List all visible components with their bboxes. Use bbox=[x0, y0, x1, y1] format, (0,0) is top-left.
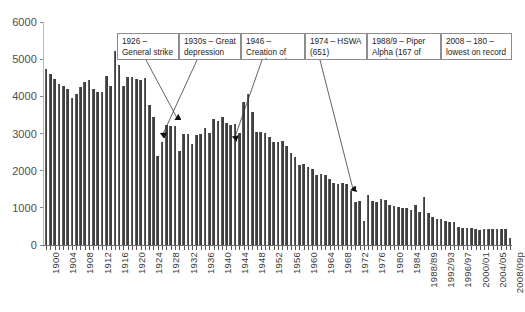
bar bbox=[444, 221, 447, 245]
x-axis-tick bbox=[218, 246, 219, 250]
bar bbox=[71, 98, 74, 245]
x-axis-tick-label: 1952 bbox=[273, 252, 284, 274]
bar bbox=[491, 229, 494, 245]
bar bbox=[221, 117, 224, 245]
x-axis-tick bbox=[347, 246, 348, 250]
x-axis-tick-label: 1916 bbox=[119, 252, 130, 274]
bar bbox=[251, 112, 254, 245]
x-axis-tick-label: 1924 bbox=[153, 252, 164, 274]
x-axis-tick bbox=[299, 246, 300, 250]
x-axis-tick bbox=[205, 246, 206, 250]
x-axis-tick bbox=[111, 246, 112, 250]
bar bbox=[500, 229, 503, 245]
x-axis-tick bbox=[424, 246, 425, 250]
bar bbox=[191, 144, 194, 245]
x-axis-tick bbox=[171, 246, 172, 250]
x-axis-tick bbox=[85, 246, 86, 250]
x-axis-tick-label: 1944 bbox=[239, 252, 250, 274]
y-axis-tick-label: 6000 bbox=[0, 16, 44, 28]
x-axis-tick bbox=[381, 246, 382, 250]
bar bbox=[414, 205, 417, 245]
x-axis-tick bbox=[471, 246, 472, 250]
bar bbox=[388, 205, 391, 246]
x-axis-tick bbox=[141, 246, 142, 250]
x-axis-tick bbox=[317, 246, 318, 250]
bar bbox=[375, 202, 378, 245]
x-axis-tick bbox=[188, 246, 189, 250]
bar bbox=[66, 89, 69, 245]
bar bbox=[161, 142, 164, 245]
y-axis: 0100020003000400050006000 bbox=[0, 0, 44, 246]
bar bbox=[217, 121, 220, 245]
bar bbox=[182, 134, 185, 245]
x-axis-tick bbox=[80, 246, 81, 250]
x-axis-tick-label: 1968 bbox=[342, 252, 353, 274]
x-axis-tick bbox=[338, 246, 339, 250]
x-axis-tick-label: 1948 bbox=[256, 252, 267, 274]
bar bbox=[384, 200, 387, 245]
x-axis-tick bbox=[244, 246, 245, 250]
bar-series bbox=[44, 22, 512, 245]
x-axis-tick bbox=[115, 246, 116, 250]
bar bbox=[436, 219, 439, 245]
x-axis-tick bbox=[252, 246, 253, 250]
x-axis-tick bbox=[50, 246, 51, 250]
x-axis-tick-label: 1960 bbox=[308, 252, 319, 274]
bar bbox=[487, 229, 490, 245]
x-axis-tick bbox=[235, 246, 236, 250]
bar bbox=[199, 134, 202, 246]
bar bbox=[294, 157, 297, 245]
x-axis: 1900190419081912191619201924192819321936… bbox=[44, 246, 512, 312]
bar bbox=[238, 133, 241, 245]
x-axis-tick bbox=[295, 246, 296, 250]
x-axis-tick bbox=[308, 246, 309, 250]
bar bbox=[470, 228, 473, 245]
bar bbox=[79, 87, 82, 245]
bar bbox=[302, 164, 305, 245]
x-axis-tick bbox=[63, 246, 64, 250]
x-axis-tick bbox=[214, 246, 215, 250]
bar bbox=[440, 219, 443, 245]
bar bbox=[58, 84, 61, 245]
bar bbox=[504, 229, 507, 245]
bar bbox=[118, 65, 121, 245]
x-axis-tick-label: 1940 bbox=[222, 252, 233, 274]
x-axis-tick-label: 1908 bbox=[84, 252, 95, 274]
bar bbox=[320, 174, 323, 245]
bar bbox=[152, 117, 155, 245]
bar bbox=[281, 141, 284, 245]
x-axis-tick bbox=[209, 246, 210, 250]
x-axis-tick bbox=[355, 246, 356, 250]
bar bbox=[165, 125, 168, 245]
bar bbox=[478, 230, 481, 245]
x-axis-tick bbox=[420, 246, 421, 250]
bar bbox=[457, 227, 460, 245]
x-axis-tick bbox=[351, 246, 352, 250]
x-axis-tick bbox=[501, 246, 502, 250]
x-axis-tick bbox=[407, 246, 408, 250]
bar bbox=[427, 213, 430, 245]
bar bbox=[148, 105, 151, 245]
x-axis-tick-label: 1976 bbox=[376, 252, 387, 274]
x-axis-tick bbox=[98, 246, 99, 250]
bar bbox=[345, 184, 348, 245]
bar bbox=[101, 92, 104, 245]
bar bbox=[418, 212, 421, 245]
x-axis-tick-label: 1920 bbox=[136, 252, 147, 274]
bar bbox=[225, 123, 228, 245]
x-axis-tick bbox=[201, 246, 202, 250]
bar bbox=[139, 80, 142, 245]
x-axis-tick bbox=[184, 246, 185, 250]
x-axis-tick bbox=[119, 246, 120, 250]
x-axis-tick-label: 1956 bbox=[291, 252, 302, 274]
x-axis-tick bbox=[510, 246, 511, 250]
bar bbox=[131, 77, 134, 245]
bar bbox=[410, 210, 413, 245]
y-axis-tick-label: 4000 bbox=[0, 90, 44, 102]
x-axis-tick-label: 1996/97 bbox=[462, 252, 473, 288]
x-axis-tick bbox=[89, 246, 90, 250]
bar bbox=[126, 77, 129, 245]
x-axis-tick bbox=[68, 246, 69, 250]
x-axis-tick bbox=[480, 246, 481, 250]
